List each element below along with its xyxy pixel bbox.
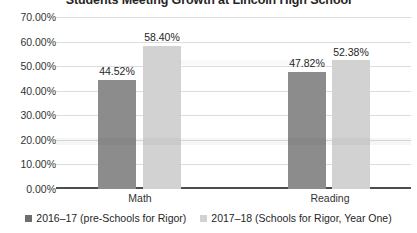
chart-legend: 2016–17 (pre-Schools for Rigor) 2017–18 … [0,212,417,224]
bar-chart: Students Meeting Growth at Lincoln High … [0,0,417,233]
y-axis-tick-70: 70.00% [2,12,56,23]
bar-label-reading-2017: 52.38% [332,47,370,58]
y-axis-tick-50: 50.00% [2,61,56,72]
y-axis-tick-30: 30.00% [2,110,56,121]
y-axis-tick-0: 0.00% [2,184,56,195]
y-axis-tick-20: 20.00% [2,135,56,146]
bar-label-math-2016: 44.52% [98,66,136,77]
legend-swatch-icon-2016-17 [25,215,32,222]
y-axis-tick-10: 10.00% [2,159,56,170]
legend-label-2016-17: 2016–17 (pre-Schools for Rigor) [36,212,186,224]
plot-area: 44.52% 58.40% 47.82% 52.38% [56,17,411,189]
bar-reading-2017[interactable] [332,60,370,189]
gridline-70 [56,17,411,18]
bar-math-2017[interactable] [143,46,181,190]
legend-item-2016-17[interactable]: 2016–17 (pre-Schools for Rigor) [25,212,186,224]
legend-swatch-icon-2017-18 [200,215,207,222]
gridline-60 [56,42,411,43]
x-axis-label-math: Math [100,192,180,204]
legend-label-2017-18: 2017–18 (Schools for Rigor, Year One) [211,212,391,224]
bar-label-reading-2016: 47.82% [288,58,326,69]
y-axis-tick-40: 40.00% [2,85,56,96]
y-axis-tick-60: 60.00% [2,36,56,47]
x-axis-label-reading: Reading [290,192,370,204]
chart-title: Students Meeting Growth at Lincoln High … [0,0,417,7]
bar-label-math-2017: 58.40% [143,32,181,43]
bar-math-2016[interactable] [98,80,136,189]
bar-reading-2016[interactable] [288,72,326,190]
legend-item-2017-18[interactable]: 2017–18 (Schools for Rigor, Year One) [200,212,391,224]
